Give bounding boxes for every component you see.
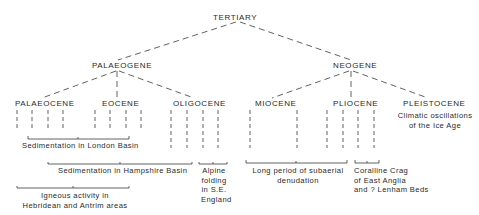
connector-palaeogene-palaeocene xyxy=(42,71,116,98)
coralline-line-2: of East Anglia xyxy=(354,176,429,186)
alpine-line-1: Alpine xyxy=(201,166,227,176)
denudation-line-1: Long period of subaerial xyxy=(250,166,346,176)
connector-tertiary-neogene xyxy=(240,22,351,60)
event-hampshire-basin: Sedimentation in Hampshire Basin xyxy=(58,166,187,176)
alpine-line-2: folding xyxy=(201,176,227,186)
node-neogene: NEOGENE xyxy=(333,61,377,70)
node-oligocene: OLIGOCENE xyxy=(173,99,226,108)
connector-neogene-miocene xyxy=(272,71,349,98)
node-tertiary: TERTIARY xyxy=(213,13,257,22)
connector-neogene-pleistocene xyxy=(353,71,428,98)
igneous-line-2: Hebridean and Antrim areas xyxy=(20,201,130,211)
event-ice-age: Climatic oscillations of the Ice Age xyxy=(392,111,478,130)
coralline-line-1: Coralline Crag xyxy=(354,166,429,176)
coralline-line-3: and ? Lenham Beds xyxy=(354,185,429,195)
event-london-basin: Sedimentation in London Basin xyxy=(22,141,139,151)
alpine-line-3: in S.E. xyxy=(201,185,227,195)
event-alpine-folding: Alpine folding in S.E. England xyxy=(201,166,227,204)
bracket-coralline xyxy=(355,160,379,163)
alpine-line-4: England xyxy=(201,195,227,205)
bracket-london-basin xyxy=(28,136,129,139)
ice-age-line-2: of the Ice Age xyxy=(392,121,478,131)
denudation-line-2: denudation xyxy=(250,176,346,186)
connector-palaeogene-oligocene xyxy=(119,71,194,98)
node-eocene: EOCENE xyxy=(102,99,139,108)
event-igneous-activity: Igneous activity in Hebridean and Antrim… xyxy=(20,191,130,210)
node-miocene: MIOCENE xyxy=(255,99,297,108)
bracket-hampshire-basin xyxy=(48,162,192,164)
ice-age-line-1: Climatic oscillations xyxy=(392,111,478,121)
event-coralline-crag: Coralline Crag of East Anglia and ? Lenh… xyxy=(354,166,429,195)
event-denudation: Long period of subaerial denudation xyxy=(250,166,346,185)
igneous-line-1: Igneous activity in xyxy=(20,191,130,201)
bracket-denudation xyxy=(246,160,347,163)
bracket-alpine xyxy=(199,162,227,164)
bracket-igneous xyxy=(17,186,129,188)
node-palaeocene: PALAEOCENE xyxy=(15,99,75,108)
node-palaeogene: PALAEOGENE xyxy=(92,61,152,70)
connector-tertiary-palaeogene xyxy=(118,22,236,60)
node-pleistocene: PLEISTOCENE xyxy=(403,99,465,108)
node-pliocene: PLIOCENE xyxy=(333,99,378,108)
